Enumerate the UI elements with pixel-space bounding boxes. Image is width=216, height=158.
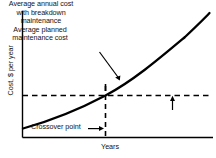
breakdown-annotation-arrow [100,52,121,81]
crossover-point-annotation: Crossover point [31,123,81,132]
chart-canvas [0,0,216,158]
y-axis-label: Cost, $ per year [7,35,16,105]
breakdown-maintenance-cost-curve [23,13,210,129]
maintenance-cost-crossover-chart: Cost, $ per year Years Average annual co… [0,0,216,158]
planned-annotation-arrow [170,96,175,110]
x-axis-label: Years [80,143,140,152]
crossover-annotation-arrow [88,126,104,131]
